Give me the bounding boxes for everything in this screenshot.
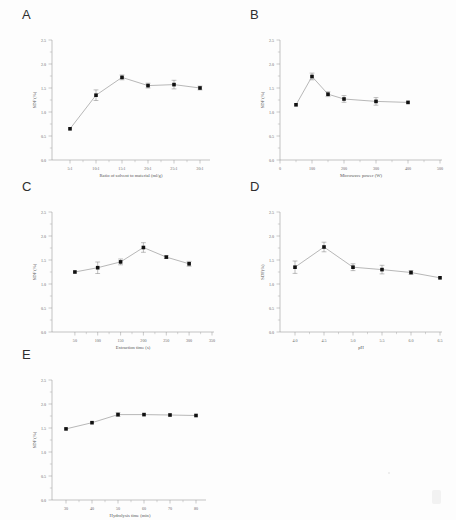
panel-d: D 0.0 0.5 1.0 bbox=[228, 172, 456, 347]
panel-c-markers bbox=[73, 246, 191, 274]
panel-a-ytick-1: 0.5 bbox=[41, 134, 46, 139]
panel-b-xtick-0: 0 bbox=[279, 166, 281, 171]
panel-e-ytick-2: 1.0 bbox=[41, 450, 46, 455]
panel-b-ytick-2: 1.0 bbox=[269, 110, 274, 115]
scan-artifact-dot bbox=[388, 472, 390, 474]
panel-d-xlabel: pH bbox=[358, 345, 364, 350]
panel-a-series-line bbox=[70, 77, 200, 128]
panel-d-series-line bbox=[295, 247, 440, 278]
panel-d-xtick-1: 4.5 bbox=[321, 338, 326, 343]
panel-a-ylabel: SDF (%) bbox=[32, 91, 37, 108]
panel-e-ytick-3: 1.5 bbox=[41, 426, 46, 431]
panel-d-ytick-5: 2.5 bbox=[269, 210, 274, 215]
panel-d-x-ticks: 4.0 4.5 5.0 5.5 6.0 6.5 bbox=[292, 332, 442, 343]
panel-d-xtick-4: 6.0 bbox=[408, 338, 413, 343]
panel-d-y-ticks: 0.0 0.5 1.0 1.5 2.0 2.5 bbox=[269, 210, 280, 335]
panel-a-xtick-3: 20:1 bbox=[144, 166, 151, 171]
panel-b-x-ticks: 0 100 200 300 400 500 bbox=[279, 160, 443, 171]
panel-a-y-ticks: 0.0 0.5 1.0 1.5 2.0 2.5 bbox=[41, 38, 52, 163]
panel-a: A 0.0 0.5 bbox=[0, 0, 228, 175]
panel-d-plot: 0.0 0.5 1.0 1.5 2.0 2.5 bbox=[228, 190, 456, 345]
panel-e-xtick-5: 80 bbox=[194, 506, 198, 511]
panel-d-ylabel: SDF(%) bbox=[260, 264, 265, 280]
panel-e-y-ticks: 0.0 0.5 1.0 1.5 2.0 2.5 bbox=[41, 378, 52, 503]
panel-d-ytick-4: 2.0 bbox=[269, 234, 274, 239]
figure-canvas: A 0.0 0.5 bbox=[0, 0, 456, 520]
panel-a-ytick-2: 1.0 bbox=[41, 110, 46, 115]
panel-d-xtick-3: 5.5 bbox=[379, 338, 384, 343]
panel-c-ytick-3: 1.5 bbox=[41, 258, 46, 263]
panel-e-xtick-0: 30 bbox=[64, 506, 68, 511]
panel-c-ytick-5: 2.5 bbox=[41, 210, 46, 215]
panel-c-series-line bbox=[75, 248, 189, 273]
panel-a-ytick-5: 2.5 bbox=[41, 38, 46, 43]
panel-d-xtick-0: 4.0 bbox=[292, 338, 297, 343]
panel-a-xtick-2: 15:1 bbox=[118, 166, 125, 171]
panel-a-error-bars bbox=[70, 75, 202, 130]
panel-a-plot: 0.0 0.5 1.0 1.5 2.0 2.5 bbox=[0, 18, 228, 173]
panel-a-ytick-4: 2.0 bbox=[41, 62, 46, 67]
panel-b-xtick-2: 200 bbox=[341, 166, 347, 171]
panel-b-ytick-5: 2.5 bbox=[269, 38, 274, 43]
panel-c-ylabel: SDF (%) bbox=[32, 263, 37, 280]
panel-e-markers bbox=[64, 413, 198, 431]
panel-c: C 0.0 0.5 1.0 bbox=[0, 172, 228, 347]
panel-e-plot: 0.0 0.5 1.0 1.5 2.0 2.5 bbox=[0, 358, 228, 513]
panel-c-ytick-2: 1.0 bbox=[41, 282, 46, 287]
panel-e-ylabel: SDF (%) bbox=[32, 431, 37, 448]
panel-d-ytick-1: 0.5 bbox=[269, 306, 274, 311]
panel-a-ytick-3: 1.5 bbox=[41, 86, 46, 91]
panel-a-markers bbox=[68, 76, 202, 131]
panel-b-ytick-0: 0.0 bbox=[269, 158, 274, 163]
panel-b-ylabel: SDF (%) bbox=[260, 91, 265, 108]
panel-b-xtick-1: 100 bbox=[309, 166, 315, 171]
panel-a-x-ticks: 5:1 10:1 15:1 20:1 25:1 30:1 bbox=[67, 160, 203, 171]
panel-e-ytick-0: 0.0 bbox=[41, 498, 46, 503]
panel-b-xtick-5: 500 bbox=[437, 166, 443, 171]
panel-c-ytick-0: 0.0 bbox=[41, 330, 46, 335]
panel-b-xtick-3: 300 bbox=[373, 166, 379, 171]
panel-e-xtick-4: 70 bbox=[168, 506, 172, 511]
panel-c-ytick-1: 0.5 bbox=[41, 306, 46, 311]
panel-a-xtick-4: 25:1 bbox=[170, 166, 177, 171]
panel-a-ytick-0: 0.0 bbox=[41, 158, 46, 163]
panel-a-xtick-5: 30:1 bbox=[196, 166, 203, 171]
panel-e-xlabel: Hydrolysis time (min) bbox=[110, 513, 151, 518]
scan-artifact-smudge bbox=[432, 490, 441, 504]
panel-e-ytick-5: 2.5 bbox=[41, 378, 46, 383]
panel-e-x-ticks: 30 40 50 60 70 80 bbox=[64, 500, 198, 511]
panel-c-ytick-4: 2.0 bbox=[41, 234, 46, 239]
panel-d-ytick-0: 0.0 bbox=[269, 330, 274, 335]
panel-b-ytick-3: 1.5 bbox=[269, 86, 274, 91]
panel-e-series-line bbox=[66, 415, 196, 429]
panel-a-xtick-1: 10:1 bbox=[92, 166, 99, 171]
panel-c-y-ticks: 0.0 0.5 1.0 1.5 2.0 2.5 bbox=[41, 210, 52, 335]
panel-e-xtick-1: 40 bbox=[90, 506, 94, 511]
panel-a-xtick-0: 5:1 bbox=[67, 166, 72, 171]
panel-b: B 0.0 0.5 1.0 bbox=[228, 0, 456, 175]
panel-e-ytick-1: 0.5 bbox=[41, 474, 46, 479]
panel-d-ytick-3: 1.5 bbox=[269, 258, 274, 263]
panel-c-plot: 0.0 0.5 1.0 1.5 2.0 2.5 bbox=[0, 190, 228, 345]
panel-d-ytick-2: 1.0 bbox=[269, 282, 274, 287]
panel-b-series-line bbox=[296, 77, 408, 105]
panel-b-xtick-4: 400 bbox=[405, 166, 411, 171]
panel-d-xtick-2: 5.0 bbox=[350, 338, 355, 343]
panel-b-plot: 0.0 0.5 1.0 1.5 2.0 2.5 bbox=[228, 18, 456, 173]
panel-e-ytick-4: 2.0 bbox=[41, 402, 46, 407]
panel-d-markers bbox=[293, 245, 442, 279]
panel-e: E 0.0 0.5 1.0 bbox=[0, 340, 228, 515]
panel-e-xtick-2: 50 bbox=[116, 506, 120, 511]
panel-b-ytick-1: 0.5 bbox=[269, 134, 274, 139]
panel-b-y-ticks: 0.0 0.5 1.0 1.5 2.0 2.5 bbox=[269, 38, 280, 163]
panel-d-xtick-5: 6.5 bbox=[437, 338, 442, 343]
panel-b-ytick-4: 2.0 bbox=[269, 62, 274, 67]
panel-e-xtick-3: 60 bbox=[142, 506, 146, 511]
